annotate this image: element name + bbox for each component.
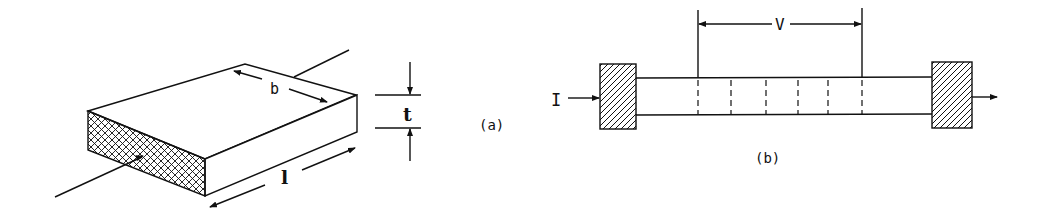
segment-divider-lines (698, 80, 862, 114)
bar-bottom-edge (636, 114, 932, 115)
label-voltage-V: V (775, 15, 785, 34)
label-current-I: I (551, 90, 561, 110)
label-thickness-t: t (403, 103, 412, 125)
label-length-l: l (281, 166, 288, 188)
caption-panel-b: (b) (755, 150, 780, 166)
front-lead-wire (55, 157, 142, 197)
caption-panel-a: (a) (479, 117, 504, 133)
bar-top-edge (636, 77, 932, 78)
label-width-b: b (270, 80, 279, 98)
right-contact-block (932, 62, 972, 128)
left-contact-block (600, 64, 636, 129)
rear-lead-wire (294, 50, 349, 77)
figure-canvas: b t l (a) I V (b) (0, 0, 1051, 212)
panel-a-slab-diagram (55, 50, 421, 207)
